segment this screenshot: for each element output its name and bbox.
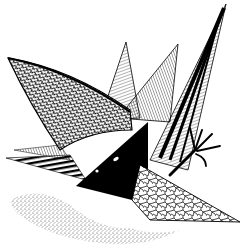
cracked-lower-shard: [132, 165, 240, 222]
striped-left-shard: [6, 145, 86, 180]
eye-icon: [95, 169, 98, 172]
left-textured-wing: [8, 58, 132, 150]
ink-illustration: [0, 0, 247, 248]
